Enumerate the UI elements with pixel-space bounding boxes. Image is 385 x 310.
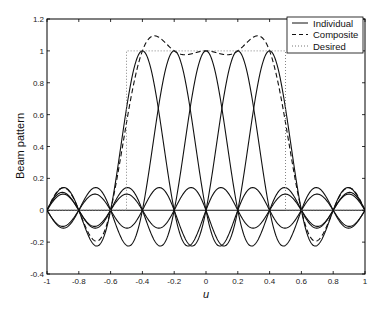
individual-beam-curve	[47, 51, 365, 246]
y-tick-label: 0.6	[33, 111, 45, 120]
x-tick-label: -1	[43, 277, 51, 286]
y-tick-label: 0.8	[33, 79, 45, 88]
axes-box	[47, 19, 365, 274]
y-axis-label: Beam pattern	[14, 113, 26, 179]
legend-item-composite: Composite	[313, 29, 358, 40]
legend-item-individual: Individual	[313, 18, 353, 29]
x-axis-label: u	[203, 288, 209, 300]
y-tick-label: 1	[40, 47, 45, 56]
y-tick-label: 1.2	[33, 15, 45, 24]
x-tick-label: 0.6	[296, 277, 308, 286]
x-tick-label: 0	[204, 277, 209, 286]
x-axis-ticks: -1-0.8-0.6-0.4-0.200.20.40.60.81	[43, 19, 367, 286]
x-tick-label: -0.2	[167, 277, 181, 286]
y-tick-label: -0.4	[30, 270, 44, 279]
x-tick-label: 0.2	[232, 277, 244, 286]
x-tick-label: -0.8	[72, 277, 86, 286]
x-tick-label: -0.4	[136, 277, 150, 286]
individual-beam-curve	[47, 51, 365, 246]
x-tick-label: 0.4	[264, 277, 276, 286]
y-tick-label: 0.4	[33, 143, 45, 152]
legend-item-desired: Desired	[313, 41, 346, 52]
y-tick-label: 0.2	[33, 174, 45, 183]
x-tick-label: 0.8	[328, 277, 340, 286]
curves	[47, 36, 365, 246]
y-tick-label: 0	[40, 206, 45, 215]
plot-area	[47, 36, 365, 246]
desired-curve	[47, 51, 365, 210]
individual-beam-curve	[47, 51, 365, 246]
individual-beam-curve	[47, 51, 365, 246]
beam-pattern-figure: -1-0.8-0.6-0.4-0.200.20.40.60.81 -0.4-0.…	[0, 0, 385, 310]
x-tick-label: 1	[363, 277, 368, 286]
legend: Individual Composite Desired	[287, 17, 363, 53]
y-tick-label: -0.2	[30, 238, 44, 247]
x-tick-label: -0.6	[104, 277, 118, 286]
individual-beam-curve	[47, 51, 365, 246]
